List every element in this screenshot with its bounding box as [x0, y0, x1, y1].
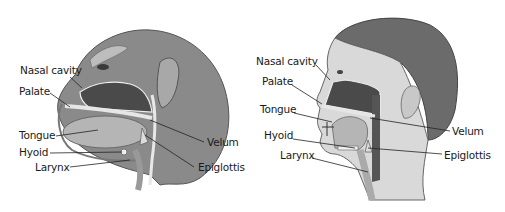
- label-palate: Palate: [262, 76, 293, 87]
- label-velum: Velum: [207, 137, 239, 148]
- label-larynx: Larynx: [35, 162, 69, 173]
- label-velum: Velum: [452, 126, 484, 137]
- human-tongue: [332, 117, 368, 150]
- label-hyoid: Hyoid: [264, 130, 293, 141]
- human-diagram: Nasal cavity Palate Tongue Hyoid Larynx …: [250, 0, 505, 212]
- human-eye: [337, 70, 343, 74]
- label-larynx: Larynx: [280, 150, 314, 161]
- chimp-eye: [97, 64, 109, 70]
- chimpanzee-diagram: Nasal cavity Palate Tongue Hyoid Larynx …: [0, 0, 250, 212]
- label-palate: Palate: [19, 86, 50, 97]
- label-epiglottis: Epiglottis: [198, 162, 245, 173]
- label-tongue: Tongue: [260, 104, 296, 115]
- label-hyoid: Hyoid: [19, 147, 48, 158]
- human-pharynx: [372, 95, 380, 182]
- chimpanzee-illustration: [0, 0, 250, 212]
- leader-palate: [292, 85, 322, 104]
- chimp-tongue: [63, 116, 147, 148]
- label-nasal-cavity: Nasal cavity: [256, 56, 318, 67]
- label-tongue: Tongue: [19, 130, 55, 141]
- label-nasal-cavity: Nasal cavity: [20, 65, 82, 76]
- label-epiglottis: Epiglottis: [444, 150, 491, 161]
